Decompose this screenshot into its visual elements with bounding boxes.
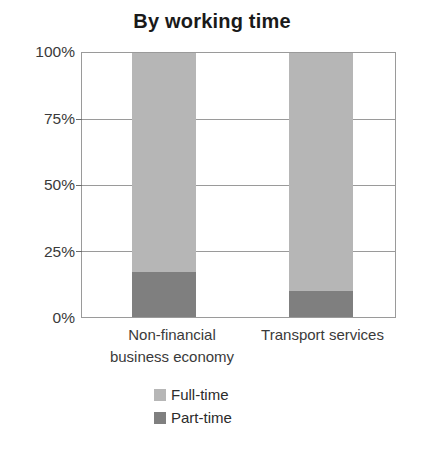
y-axis-tick-label: 0% (0, 309, 75, 327)
x-axis-category-line: business economy (81, 346, 263, 368)
x-axis-category-line: Non-financial (81, 324, 263, 346)
plot-area (81, 52, 396, 318)
legend-swatch-icon (154, 389, 166, 401)
bar-segment-full-time[interactable] (132, 53, 196, 272)
legend-item-part-time[interactable]: Part-time (154, 409, 270, 426)
bar-column[interactable] (289, 53, 353, 317)
legend-swatch-icon (154, 412, 166, 424)
x-axis: Non-financialbusiness economy Transport … (81, 324, 396, 376)
legend-item-label: Part-time (171, 409, 232, 426)
y-axis-tick-label: 25% (0, 243, 75, 261)
bar-segment-part-time[interactable] (132, 272, 196, 317)
bar-column[interactable] (132, 53, 196, 317)
chart-container: By working time 100% 75% 50% 25% 0% Non-… (0, 0, 424, 449)
legend-item-label: Full-time (171, 386, 229, 403)
x-axis-category-label: Transport services (249, 324, 396, 346)
y-axis-tick-label: 100% (0, 43, 75, 61)
y-axis-tick-label: 75% (0, 110, 75, 128)
legend: Full-time Part-time (0, 386, 424, 426)
x-axis-category-line: Transport services (249, 324, 396, 346)
bar-segment-full-time[interactable] (289, 53, 353, 291)
y-axis-tick-label: 50% (0, 176, 75, 194)
bar-segment-part-time[interactable] (289, 291, 353, 317)
y-axis: 100% 75% 50% 25% 0% (0, 52, 75, 318)
legend-item-full-time[interactable]: Full-time (154, 386, 270, 403)
chart-title: By working time (0, 10, 424, 33)
x-axis-category-label: Non-financialbusiness economy (81, 324, 263, 368)
